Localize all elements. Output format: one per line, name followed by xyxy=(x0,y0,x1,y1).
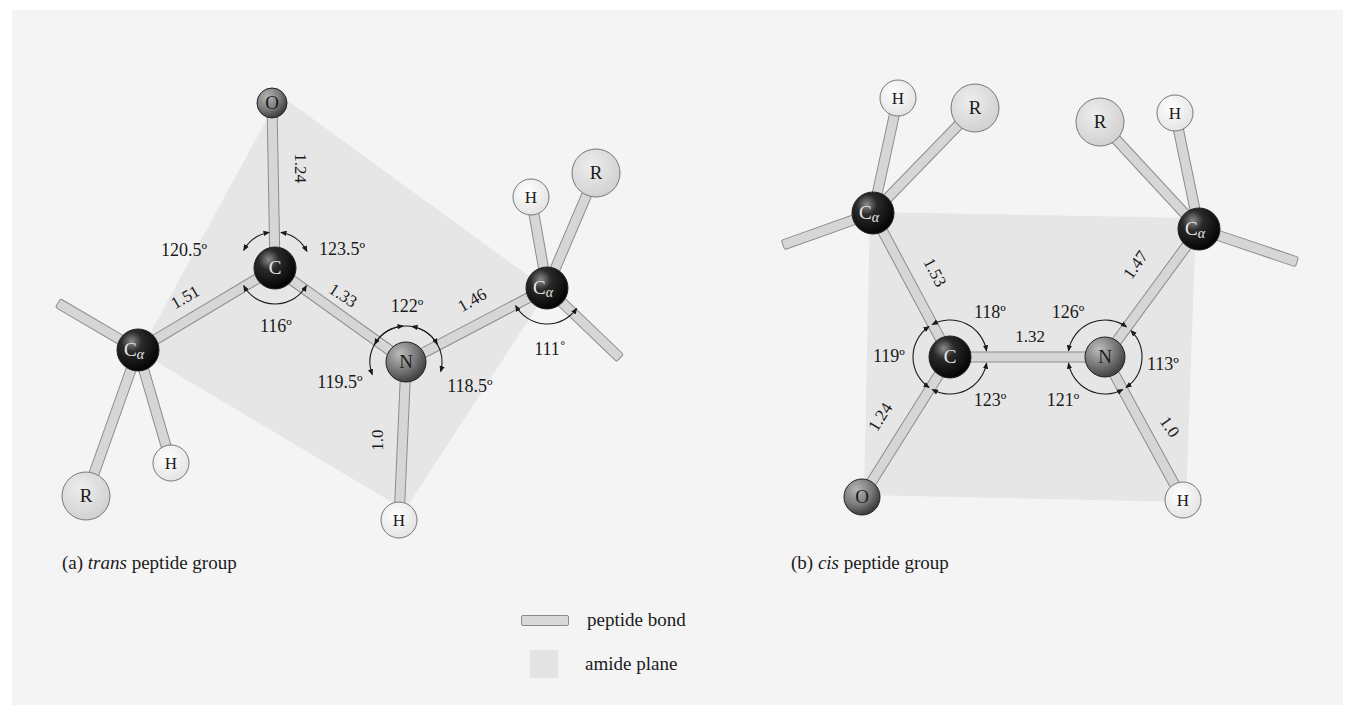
atom-n: N xyxy=(386,342,426,382)
caption-trans: (a) trans peptide group xyxy=(62,552,237,574)
caption-cis: (b) cis peptide group xyxy=(791,552,949,574)
atom-o: O xyxy=(844,479,880,515)
atom-r1: R xyxy=(951,84,999,132)
atom-c: C xyxy=(929,336,971,378)
atom-ca1: Cα xyxy=(117,329,159,371)
bond-angle-label: 118.5º xyxy=(447,376,493,396)
atom-label: R xyxy=(969,97,982,118)
peptide-diagram: OCNCαCαHHRHR1.241.511.331.461.0120.5º123… xyxy=(0,0,1362,714)
bond-length-label: 1.32 xyxy=(1015,327,1045,346)
atom-r2: R xyxy=(1076,98,1124,146)
atom-r2: R xyxy=(572,149,620,197)
peptide-bond xyxy=(950,352,1105,362)
atom-h1: H xyxy=(880,80,916,116)
bond-angle-label: 119º xyxy=(873,346,905,366)
atom-label: C xyxy=(269,257,282,278)
bond-angle-label: 123º xyxy=(974,390,1007,410)
atom-label: O xyxy=(855,486,869,507)
atom-label: R xyxy=(80,485,93,506)
atom-h2: H xyxy=(1157,95,1193,131)
peptide-bond-swatch-icon xyxy=(521,615,569,626)
atom-h-n: H xyxy=(381,502,417,538)
bond-angle-label: 113º xyxy=(1147,354,1179,374)
bond-angle-label: 122º xyxy=(391,296,424,316)
atom-h2: H xyxy=(513,179,549,215)
trans-peptide-group: OCNCαCαHHRHR1.241.511.331.461.0120.5º123… xyxy=(55,88,623,538)
bond-length-label: 1.24 xyxy=(291,153,310,183)
bond-angle-label: 123.5º xyxy=(319,239,366,259)
atom-ca2: Cα xyxy=(1178,208,1220,250)
atom-h-n: H xyxy=(1165,482,1201,518)
atom-label: O xyxy=(265,92,279,113)
bond-angle-label: 111˚ xyxy=(534,339,566,359)
atom-ca2: Cα xyxy=(526,267,568,309)
bond-angle-label: 119.5º xyxy=(317,372,363,392)
atom-h1: H xyxy=(153,445,189,481)
bond-angle-label: 120.5º xyxy=(161,240,208,260)
atom-r1: R xyxy=(62,472,110,520)
atom-ca1: Cα xyxy=(852,192,894,234)
atom-n: N xyxy=(1085,337,1125,377)
atom-label: H xyxy=(165,454,177,473)
bond-angle-label: 118º xyxy=(974,302,1006,322)
atom-label: N xyxy=(399,351,413,372)
atom-label: H xyxy=(892,89,904,108)
atom-label: H xyxy=(393,511,405,530)
atom-label: N xyxy=(1098,346,1112,367)
bond-length-label: 1.0 xyxy=(368,429,387,450)
amide-plane-swatch-icon xyxy=(530,650,558,678)
atom-label: H xyxy=(1177,491,1189,510)
legend-amide-plane: amide plane xyxy=(521,650,677,678)
atom-label: H xyxy=(1169,104,1181,123)
bond-angle-label: 121º xyxy=(1047,390,1080,410)
legend-peptide-bond: peptide bond xyxy=(521,609,686,631)
atom-o: O xyxy=(257,88,287,118)
atom-label: C xyxy=(944,346,957,367)
atom-label: R xyxy=(590,162,603,183)
cis-peptide-group: CNOHCαCαHRRH1.531.321.471.241.0118º126º1… xyxy=(781,80,1298,518)
atom-label: R xyxy=(1094,111,1107,132)
atom-c: C xyxy=(254,247,296,289)
bond-angle-label: 126º xyxy=(1052,302,1085,322)
bond-angle-label: 116º xyxy=(260,316,292,336)
atom-label: H xyxy=(525,188,537,207)
